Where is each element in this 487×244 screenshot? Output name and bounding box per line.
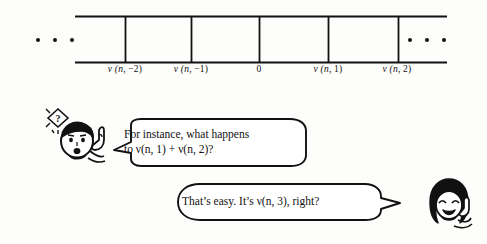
- number-line-strip-diagram: ν (n, −2) ν (n, −1) 0 ν (n, 1) ν (n, 2): [0, 0, 487, 90]
- boy-head: [61, 122, 93, 158]
- ellipsis-dot: [425, 38, 429, 42]
- ellipsis-dot: [408, 38, 412, 42]
- boy-mouth: [74, 148, 81, 154]
- bubble-boy-text: For instance, what happens to ν(n, 1) + …: [124, 127, 249, 156]
- boy-shoulder: [88, 158, 105, 162]
- figure-page: ν (n, −2) ν (n, −1) 0 ν (n, 1) ν (n, 2) …: [0, 0, 487, 244]
- girl-shoulder: [454, 224, 472, 228]
- cell-label-nu-n-2: ν (n, 2): [347, 64, 447, 74]
- boy-eye-right: [81, 138, 85, 143]
- ellipsis-dot: [36, 38, 40, 42]
- ellipsis-dot: [70, 38, 74, 42]
- svg-text:?: ?: [56, 113, 61, 124]
- ellipsis-dot: [442, 38, 446, 42]
- bubble-boy-line-1: For instance, what happens: [124, 127, 249, 142]
- bubble-boy-line-2: to ν(n, 1) + ν(n, 2)?: [124, 142, 249, 157]
- ellipsis-dot: [53, 38, 57, 42]
- cell-label-row: ν (n, −2) ν (n, −1) 0 ν (n, 1) ν (n, 2): [75, 64, 447, 84]
- boy-arm: [90, 151, 104, 157]
- girl-character: [424, 176, 484, 234]
- left-ellipsis: [36, 38, 74, 42]
- right-ellipsis: [408, 38, 446, 42]
- bubble-girl-line-1: That’s easy. It’s ν(n, 3), right?: [182, 194, 319, 209]
- bubble-girl-text: That’s easy. It’s ν(n, 3), right?: [182, 194, 319, 209]
- boy-eye-left: [69, 138, 73, 143]
